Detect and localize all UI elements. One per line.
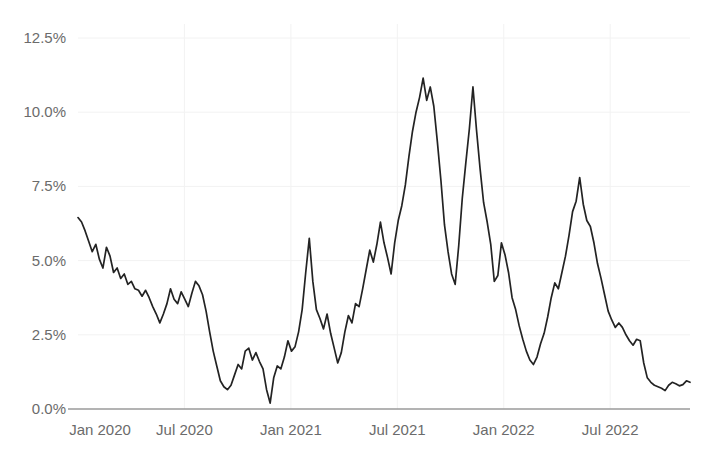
chart-figure: Percent of Tests Returning Positive (7-d… — [0, 0, 710, 460]
x-axis-tick-label: Jan 2021 — [260, 421, 322, 438]
y-axis-tick-labels: 0.0%2.5%5.0%7.5%10.0%12.5% — [23, 29, 66, 417]
y-axis-tick-label: 7.5% — [32, 177, 66, 194]
y-axis-tick-label: 0.0% — [32, 400, 66, 417]
x-axis-tick-label: Jul 2021 — [369, 421, 426, 438]
x-axis-tick-label: Jan 2020 — [69, 421, 131, 438]
line-chart-plot: 0.0%2.5%5.0%7.5%10.0%12.5% Jan 2020Jul 2… — [0, 0, 710, 460]
y-axis-tick-label: 2.5% — [32, 326, 66, 343]
x-axis-tick-label: Jul 2020 — [156, 421, 213, 438]
gridlines-group — [78, 24, 690, 409]
y-axis-tick-label: 5.0% — [32, 252, 66, 269]
x-axis-tick-labels: Jan 2020Jul 2020Jan 2021Jul 2021Jan 2022… — [69, 421, 638, 438]
y-axis-tick-label: 12.5% — [23, 29, 66, 46]
y-axis-tick-label: 10.0% — [23, 103, 66, 120]
x-axis-tick-label: Jan 2022 — [473, 421, 535, 438]
x-axis-tick-label: Jul 2022 — [582, 421, 639, 438]
series-line-percent-positive — [78, 78, 690, 403]
